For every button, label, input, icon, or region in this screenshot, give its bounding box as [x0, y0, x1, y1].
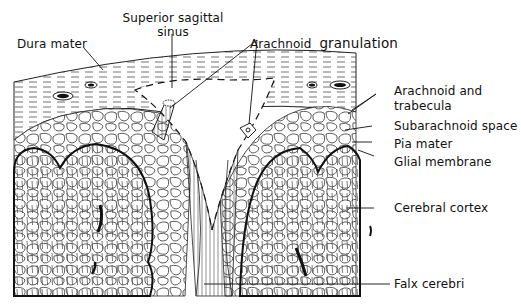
label-arachnoid-and-trabecula-line1: Arachnoid and [394, 84, 482, 98]
label-cerebral-cortex: Cerebral cortex [394, 201, 488, 215]
label-superior-sagittal-sinus-line2: sinus [118, 25, 228, 39]
label-dura-mater: Dura mater [17, 37, 87, 51]
label-arachnoid-and-trabecula-line2: trabecula [394, 99, 452, 113]
label-arachnoid: Arachnoid [250, 37, 312, 51]
label-superior-sagittal-sinus-line1: Superior sagittal [118, 11, 228, 25]
label-subarachnoid-space: Subarachnoid space [394, 119, 517, 133]
label-pia-mater: Pia mater [394, 137, 452, 151]
cerebral-cortex-left [14, 144, 153, 296]
label-glial-membrane: Glial membrane [394, 155, 492, 169]
label-arachnoid-granulation: Arachnoid granulation [250, 36, 398, 51]
label-granulation: granulation [319, 35, 398, 51]
label-falx-cerebri: Falx cerebri [394, 277, 465, 291]
